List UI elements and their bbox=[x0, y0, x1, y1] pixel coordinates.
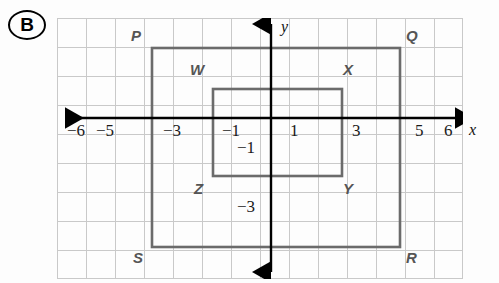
x-tick-label-6: 6 bbox=[444, 122, 453, 139]
x-tick-label-3: 3 bbox=[352, 122, 361, 139]
coordinate-plane-figure: B bbox=[0, 0, 499, 283]
vertex-label-Q: Q bbox=[406, 28, 418, 43]
vertex-label-W: W bbox=[190, 62, 204, 77]
graph-area bbox=[57, 18, 463, 279]
x-tick-label-minus5: −5 bbox=[96, 122, 114, 139]
vertex-label-P: P bbox=[131, 28, 141, 43]
x-tick-label-minus1: −1 bbox=[222, 122, 240, 139]
vertex-label-S: S bbox=[133, 250, 143, 265]
x-tick-label-minus6: −6 bbox=[67, 122, 85, 139]
vertex-label-Z: Z bbox=[194, 181, 203, 196]
problem-badge: B bbox=[8, 10, 46, 40]
vertex-label-X: X bbox=[343, 62, 353, 77]
x-tick-label-1: 1 bbox=[290, 122, 299, 139]
y-tick-label-minus3: −3 bbox=[237, 198, 255, 215]
axes bbox=[57, 18, 463, 279]
x-axis-name: x bbox=[469, 122, 476, 138]
y-tick-label-minus1: −1 bbox=[237, 139, 255, 156]
y-axis-name: y bbox=[281, 19, 288, 35]
vertex-label-R: R bbox=[406, 250, 417, 265]
x-tick-label-5: 5 bbox=[415, 122, 424, 139]
x-tick-label-minus3: −3 bbox=[163, 122, 181, 139]
problem-badge-label: B bbox=[20, 14, 34, 36]
vertex-label-Y: Y bbox=[343, 181, 353, 196]
